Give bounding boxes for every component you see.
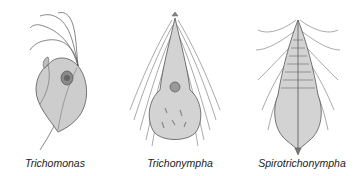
- spirotrichonympha-illustration: [238, 0, 358, 176]
- panel-trichonympha: Trichonympha: [120, 0, 240, 176]
- panel-spirotrichonympha: Spirotrichonympha: [238, 0, 358, 176]
- panel-trichomonas: Trichomonas: [0, 0, 120, 176]
- label-trichomonas: Trichomonas: [15, 157, 95, 169]
- label-trichonympha: Trichonympha: [135, 157, 225, 169]
- trichonympha-illustration: [120, 0, 240, 176]
- label-spirotrichonympha: Spirotrichonympha: [246, 157, 358, 169]
- trichomonas-illustration: [0, 0, 120, 176]
